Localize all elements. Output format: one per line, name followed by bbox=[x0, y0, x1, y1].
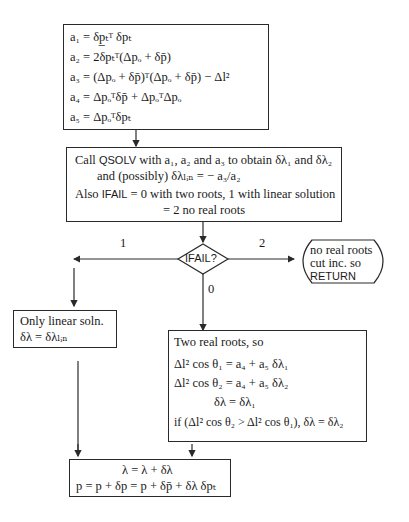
qsolv-box: Call QSOLV with a₁, a₂ and a₃ to obtain … bbox=[66, 147, 342, 222]
qsolv-line-3: Also IFAIL = 0 with two roots, 1 with li… bbox=[75, 186, 335, 202]
qsolv-line-4: = 2 no real roots bbox=[163, 202, 245, 218]
qsolv-line-3-suffix: = 0 with two roots, 1 with linear soluti… bbox=[127, 187, 335, 201]
no-real-roots-terminal: no real roots cut inc. so RETURN bbox=[308, 242, 378, 282]
update-box: λ = λ + δλ p = p + δp = p + δp̄ + δλ δpₜ bbox=[69, 459, 231, 497]
ifail-flag-name: IFAIL bbox=[102, 188, 128, 200]
two-roots-line-5: if (Δl² cos θ₂ > Δl² cos θ₁), δλ = δλ₂ bbox=[174, 414, 343, 430]
qsolv-line-1-prefix: Call bbox=[75, 153, 99, 167]
qsolv-line-1-suffix: with a₁, a₂ and a₃ to obtain δλ₁ and δλ₂ bbox=[136, 153, 332, 167]
qsolv-line-1: Call QSOLV with a₁, a₂ and a₃ to obtain … bbox=[75, 152, 332, 168]
coeff-a5: a₅ = Δpₒᵀδpₜ bbox=[70, 109, 131, 125]
two-roots-line-2: Δl² cos θ₁ = a₄ + a₅ δλ₁ bbox=[174, 356, 288, 372]
decision-label: IFAIL? bbox=[185, 252, 217, 264]
qsolv-line-2: and (possibly) δλₗᵢₙ = − a₃/a₂ bbox=[97, 168, 241, 184]
update-line-1: λ = λ + δλ bbox=[122, 462, 173, 478]
branch-label-0: 0 bbox=[208, 282, 214, 297]
linear-line-1: Only linear soln. bbox=[20, 313, 104, 329]
qsolv-line-3-prefix: Also bbox=[75, 187, 102, 201]
coefficients-box: a₁ = δp̲ₜᵀ δpₜ a₂ = 2δpₜᵀ(Δpₒ + δp̄) a₃ … bbox=[63, 24, 269, 130]
branch-label-1: 1 bbox=[120, 236, 126, 251]
linear-line-2: δλ = δλₗᵢₙ bbox=[20, 329, 68, 345]
two-roots-line-3: Δl² cos θ₂ = a₄ + a₅ δλ₂ bbox=[174, 375, 288, 391]
two-roots-box: Two real roots, so Δl² cos θ₁ = a₄ + a₅ … bbox=[168, 330, 367, 442]
coeff-a1: a₁ = δp̲ₜᵀ δpₜ bbox=[70, 29, 131, 45]
qsolv-routine-name: QSOLV bbox=[99, 154, 136, 166]
update-line-2: p = p + δp = p + δp̄ + δλ δpₜ bbox=[76, 478, 216, 494]
two-roots-line-4: δλ = δλ₁ bbox=[214, 394, 256, 410]
branch-label-2: 2 bbox=[259, 236, 265, 251]
two-roots-line-1: Two real roots, so bbox=[174, 334, 263, 350]
coeff-a2: a₂ = 2δpₜᵀ(Δpₒ + δp̄) bbox=[70, 49, 171, 65]
coeff-a4: a₄ = Δpₒᵀδp̄ + ΔpₒᵀΔpₒ bbox=[70, 89, 181, 105]
linear-solution-box: Only linear soln. δλ = δλₗᵢₙ bbox=[13, 310, 117, 348]
coeff-a3: a₃ = (Δpₒ + δp̄)ᵀ(Δpₒ + δp̄) − Δl² bbox=[70, 69, 230, 85]
no-roots-line-3: RETURN bbox=[310, 268, 356, 284]
